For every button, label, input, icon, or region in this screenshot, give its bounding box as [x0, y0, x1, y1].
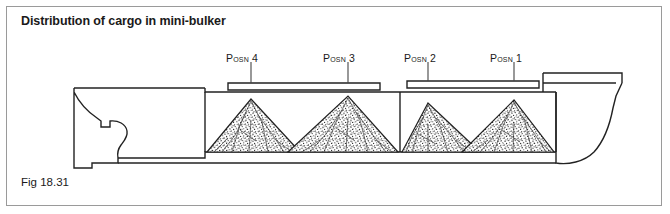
poop-deck-line: [543, 73, 622, 83]
hatch-cover-aft: [407, 81, 539, 88]
posn-label-2: Posn 2: [404, 52, 436, 64]
cargo-piles: [200, 88, 560, 163]
posn-label-1: Posn 1: [490, 52, 522, 64]
tank-top-line: [118, 152, 556, 158]
posn-label-4: Posn 4: [226, 52, 258, 64]
figure-caption: Fig 18.31: [21, 176, 69, 188]
figure-container: Distribution of cargo in mini-bulker: [0, 0, 670, 214]
hatch-cover-forward: [228, 83, 380, 90]
hatch-covers: [228, 81, 539, 90]
cargo-pile-posn-2: [396, 95, 488, 163]
ship-section-diagram: [0, 0, 670, 214]
cargo-pile-posn-3: [282, 88, 404, 160]
bow-stem-profile: [74, 88, 127, 168]
cargo-pile-posn-1: [456, 92, 560, 162]
stern-hull-profile: [556, 83, 622, 164]
posn-label-3: Posn 3: [323, 52, 355, 64]
posn-leader-lines: [251, 62, 514, 83]
